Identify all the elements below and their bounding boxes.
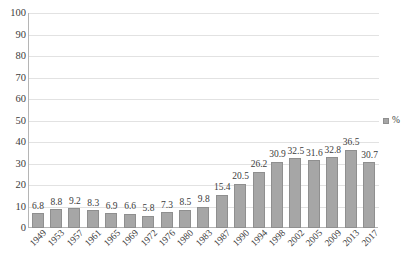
bar-slot: 15.4: [213, 13, 230, 228]
y-axis-tick-label: 10: [0, 202, 26, 213]
y-axis-tick-label: 0: [0, 223, 26, 234]
bar-slot: 32.8: [324, 13, 341, 228]
x-axis-tick: 1957: [66, 229, 83, 269]
y-axis-tick-label: 40: [0, 137, 26, 148]
bar-chart: 0102030405060708090100 6.88.89.28.36.96.…: [0, 0, 410, 269]
x-axis-tick: 1965: [103, 229, 120, 269]
y-axis-tick-label: 30: [0, 159, 26, 170]
bar-value-label: 30.7: [356, 151, 384, 161]
x-axis-tick: 1987: [213, 229, 230, 269]
bar-slot: 20.5: [232, 13, 249, 228]
x-axis-tick: 1953: [47, 229, 64, 269]
bar[interactable]: [216, 195, 228, 228]
x-axis-tick: 1983: [195, 229, 212, 269]
bar-slot: 6.9: [103, 13, 120, 228]
x-axis-tick: 1998: [268, 229, 285, 269]
bar-slot: 7.3: [158, 13, 175, 228]
y-axis-tick-label: 80: [0, 51, 26, 62]
x-axis-tick: 2002: [287, 229, 304, 269]
bar[interactable]: [253, 172, 265, 228]
bar-slot: 5.8: [140, 13, 157, 228]
x-axis-tick: 1980: [176, 229, 193, 269]
y-axis-tick-label: 60: [0, 94, 26, 105]
bar[interactable]: [345, 150, 357, 228]
bar-slot: 31.6: [305, 13, 322, 228]
y-axis-tick-label: 70: [0, 73, 26, 84]
x-axis-tick: 1990: [232, 229, 249, 269]
bar-series: 6.88.89.28.36.96.65.87.38.59.815.420.526…: [29, 13, 378, 228]
y-axis-tick-label: 100: [0, 8, 26, 19]
x-axis-tick: 1961: [84, 229, 101, 269]
bar[interactable]: [326, 157, 338, 228]
bar[interactable]: [68, 208, 80, 228]
bar-slot: 6.6: [121, 13, 138, 228]
x-axis-tick: 1972: [140, 229, 157, 269]
x-axis-tick: 2009: [324, 229, 341, 269]
bar[interactable]: [197, 207, 209, 228]
x-axis-tick-label: 2017: [356, 225, 383, 252]
bar-slot: 6.8: [29, 13, 46, 228]
x-axis-tick: 1994: [250, 229, 267, 269]
bar-slot: 32.5: [287, 13, 304, 228]
bar-slot: 26.2: [250, 13, 267, 228]
y-axis-tick-label: 50: [0, 116, 26, 127]
x-axis-tick: 2017: [361, 229, 378, 269]
bar[interactable]: [271, 162, 283, 228]
bar-slot: 8.3: [84, 13, 101, 228]
x-axis-tick: 1949: [29, 229, 46, 269]
x-axis-tick: 1969: [121, 229, 138, 269]
legend-label-percent: %: [392, 116, 400, 126]
bar-slot: 30.7: [361, 13, 378, 228]
y-axis-tick-label: 90: [0, 30, 26, 41]
legend-swatch-percent: [383, 118, 389, 124]
bar-slot: 36.5: [342, 13, 359, 228]
x-axis: 1949195319571961196519691972197619801983…: [29, 229, 378, 269]
bar-slot: 9.2: [66, 13, 83, 228]
bar-slot: 30.9: [268, 13, 285, 228]
bar[interactable]: [363, 162, 375, 228]
bar[interactable]: [308, 160, 320, 228]
x-axis-tick: 2013: [342, 229, 359, 269]
bar[interactable]: [289, 158, 301, 228]
x-axis-tick: 1976: [158, 229, 175, 269]
x-axis-tick: 2005: [305, 229, 322, 269]
bar-slot: 9.8: [195, 13, 212, 228]
y-axis-tick-label: 20: [0, 180, 26, 191]
legend: %: [383, 116, 400, 126]
bar[interactable]: [234, 184, 246, 228]
